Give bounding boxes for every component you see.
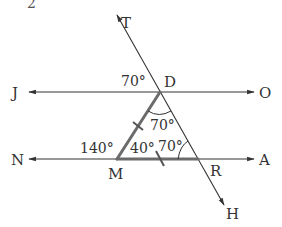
angle-arc-d (148, 111, 171, 115)
label-o: O (259, 84, 271, 102)
angle-nmd: 140° (80, 140, 114, 156)
angle-mdr: 70° (150, 117, 175, 133)
diagram-canvas: 2 T D J O N A M R H 70° 70° 140° 40° 70° (0, 0, 282, 227)
line-th (117, 15, 224, 205)
label-t: T (121, 14, 131, 32)
angle-jdt: 70° (121, 73, 146, 89)
label-a: A (258, 151, 270, 169)
angle-drm: 70° (158, 138, 183, 154)
label-j: J (10, 84, 18, 102)
angle-dmr: 40° (130, 140, 155, 156)
problem-number: 2 (27, 0, 36, 11)
label-m: M (108, 165, 123, 183)
geometry-diagram: 2 T D J O N A M R H 70° 70° 140° 40° 70° (0, 0, 282, 227)
label-h: H (226, 205, 239, 223)
label-d: D (164, 73, 176, 91)
label-r: R (210, 162, 222, 180)
label-n: N (11, 151, 24, 169)
